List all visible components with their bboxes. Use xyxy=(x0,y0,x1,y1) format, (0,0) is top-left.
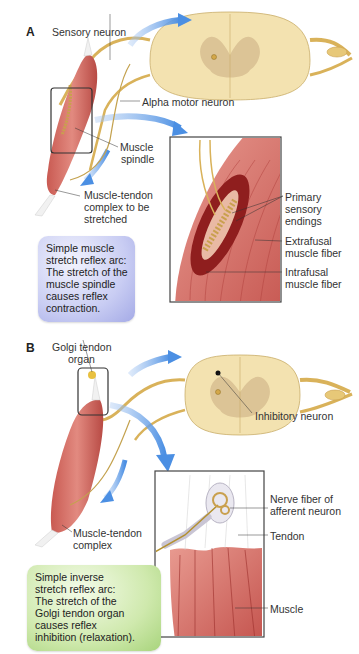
spindle-detail-box xyxy=(170,130,300,310)
callout-stretch-reflex: Simple muscle stretch reflex arc: The st… xyxy=(38,236,135,322)
label-inhibitory-neuron: Inhibitory neuron xyxy=(255,410,333,422)
label-intrafusal-2: muscle fiber xyxy=(285,278,342,290)
label-golgi-2: organ xyxy=(68,353,95,365)
label-muscle-spindle-1: Muscle xyxy=(120,141,153,153)
golgi-detail-box xyxy=(155,471,264,640)
callout-a-line: contraction. xyxy=(46,302,127,314)
label-tendon: Tendon xyxy=(270,530,304,542)
label-muscle-tendon-b-2: complex xyxy=(73,539,112,551)
callout-a-line: muscle spindle xyxy=(46,278,127,290)
callout-b-line: stretch reflex arc: xyxy=(35,583,153,595)
callout-a-line: Simple muscle xyxy=(46,242,127,254)
label-extrafusal-1: Extrafusal xyxy=(285,235,332,247)
label-muscle-spindle-2: spindle xyxy=(121,153,154,165)
callout-inverse-stretch-reflex: Simple inverse stretch reflex arc: The s… xyxy=(27,565,161,651)
callout-b-line: Simple inverse xyxy=(35,571,153,583)
callout-b-line: Golgi tendon organ xyxy=(35,607,153,619)
label-sensory-neuron: Sensory neuron xyxy=(52,26,126,38)
label-primary-2: sensory xyxy=(285,203,322,215)
label-nerve-fiber-1: Nerve fiber of xyxy=(270,493,333,505)
label-intrafusal-1: Intrafusal xyxy=(285,266,328,278)
label-muscle-tendon-b-1: Muscle-tendon xyxy=(73,527,142,539)
label-primary-1: Primary xyxy=(285,191,321,203)
callout-a-line: stretch reflex arc: xyxy=(46,254,127,266)
label-muscle-tendon-a-2: complex to be xyxy=(84,201,149,213)
label-muscle: Muscle xyxy=(270,603,303,615)
callout-b-line: inhibition (relaxation). xyxy=(35,631,153,643)
callout-b-line: The stretch of the xyxy=(35,595,153,607)
callout-b-line: causes reflex xyxy=(35,619,153,631)
callout-a-line: The stretch of the xyxy=(46,266,127,278)
callout-a-line: causes reflex xyxy=(46,290,127,302)
label-golgi-1: Golgi tendon xyxy=(52,341,112,353)
label-muscle-tendon-a-1: Muscle-tendon xyxy=(84,189,153,201)
label-primary-3: endings xyxy=(285,215,322,227)
label-muscle-tendon-a-3: stretched xyxy=(84,213,127,225)
panel-a-letter: A xyxy=(26,25,35,39)
label-alpha-motor-neuron: Alpha motor neuron xyxy=(142,96,234,108)
muscle-b xyxy=(35,368,108,547)
panel-b-letter: B xyxy=(26,341,35,355)
label-nerve-fiber-2: afferent neuron xyxy=(270,505,341,517)
label-extrafusal-2: muscle fiber xyxy=(285,247,342,259)
